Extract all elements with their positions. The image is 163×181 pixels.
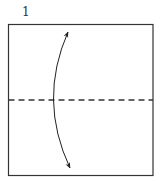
fold-diagram xyxy=(0,0,163,181)
